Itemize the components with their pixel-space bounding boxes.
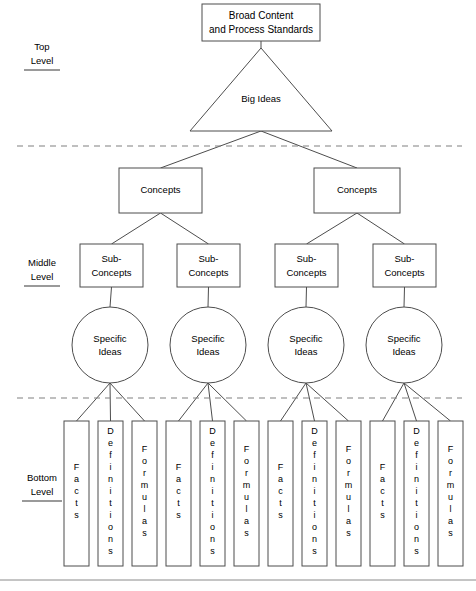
specific-ideas-line2-0: Ideas bbox=[98, 346, 121, 357]
level-label-line1-0: Top bbox=[34, 41, 49, 52]
bottom-box-6-char-1: a bbox=[278, 474, 283, 484]
sub-concepts-box-1[interactable] bbox=[177, 244, 240, 287]
bottom-box-9-char-0: F bbox=[380, 462, 386, 472]
level-label-line1-2: Bottom bbox=[27, 472, 57, 483]
connector-circle-1-to-box-1 bbox=[208, 383, 213, 421]
bottom-box-1-char-5: i bbox=[110, 486, 112, 496]
connector-concepts-1-to-sub-1 bbox=[357, 213, 405, 244]
bottom-box-1-char-7: i bbox=[110, 510, 112, 520]
bottom-box-4-char-8: o bbox=[210, 522, 215, 532]
bottom-box-10-char-8: o bbox=[414, 522, 419, 532]
big-ideas-triangle[interactable] bbox=[190, 48, 332, 131]
bottom-box-11-char-4: u bbox=[448, 492, 453, 502]
connector-triangle-to-concepts-0 bbox=[161, 131, 262, 168]
specific-ideas-line1-2: Specific bbox=[289, 333, 323, 344]
bottom-box-1-char-3: i bbox=[110, 462, 112, 472]
concepts-label-0: Concepts bbox=[140, 184, 180, 195]
bottom-box-1-char-10: s bbox=[108, 546, 113, 556]
connector-circle-3-to-box-2 bbox=[404, 383, 451, 421]
big-ideas-label: Big Ideas bbox=[241, 93, 281, 104]
sub-concepts-box-3[interactable] bbox=[373, 244, 436, 287]
connector-sub-0-to-circle bbox=[110, 287, 112, 307]
sub-concepts-line2-2: Concepts bbox=[286, 267, 326, 278]
bottom-box-10-char-7: i bbox=[416, 510, 418, 520]
bottom-box-11-char-6: a bbox=[448, 516, 453, 526]
specific-ideas-line2-2: Ideas bbox=[294, 346, 317, 357]
bottom-box-7-char-0: D bbox=[311, 426, 318, 436]
broad-standards-line2: and Process Standards bbox=[209, 24, 313, 35]
bottom-box-9-char-4: s bbox=[380, 510, 385, 520]
bottom-box-2-char-3: m bbox=[141, 480, 149, 490]
connector-circle-1-to-box-2 bbox=[208, 383, 247, 421]
diagram-canvas: Broad Contentand Process StandardsBig Id… bbox=[0, 0, 476, 591]
connector-sub-2-to-circle bbox=[306, 287, 307, 307]
specific-ideas-line2-1: Ideas bbox=[196, 346, 219, 357]
sub-concepts-line1-0: Sub- bbox=[101, 253, 121, 264]
bottom-box-11-char-7: s bbox=[448, 528, 453, 538]
bottom-box-1-char-9: n bbox=[108, 534, 113, 544]
bottom-box-10-char-1: e bbox=[414, 438, 419, 448]
bottom-box-8-char-7: s bbox=[346, 528, 351, 538]
bottom-box-8-char-2: r bbox=[347, 468, 350, 478]
connector-circle-0-to-box-2 bbox=[110, 383, 145, 421]
connector-circle-0-to-box-0 bbox=[77, 383, 111, 421]
bottom-box-7-char-10: s bbox=[312, 546, 317, 556]
sub-concepts-box-0[interactable] bbox=[80, 244, 143, 287]
connector-circle-2-to-box-0 bbox=[281, 383, 307, 421]
bottom-box-5-char-0: F bbox=[244, 444, 250, 454]
bottom-box-3-char-1: a bbox=[176, 474, 181, 484]
connector-circle-3-to-box-0 bbox=[383, 383, 405, 421]
bottom-box-11-char-1: o bbox=[448, 456, 453, 466]
bottom-box-2-char-4: u bbox=[142, 492, 147, 502]
bottom-box-3-char-4: s bbox=[176, 510, 181, 520]
bottom-box-4-char-1: e bbox=[210, 438, 215, 448]
level-label-line2-2: Level bbox=[31, 486, 54, 497]
bottom-box-4-char-3: i bbox=[212, 462, 214, 472]
specific-ideas-line1-0: Specific bbox=[93, 333, 127, 344]
bottom-box-3-char-0: F bbox=[176, 462, 182, 472]
bottom-box-6-char-0: F bbox=[278, 462, 284, 472]
bottom-box-5-char-4: u bbox=[244, 492, 249, 502]
bottom-box-7-char-5: i bbox=[314, 486, 316, 496]
bottom-box-1-char-0: D bbox=[107, 426, 114, 436]
bottom-box-1-char-8: o bbox=[108, 522, 113, 532]
bottom-box-2-char-0: F bbox=[142, 444, 148, 454]
sub-concepts-box-2[interactable] bbox=[275, 244, 338, 287]
bottom-box-4-char-4: n bbox=[210, 474, 215, 484]
bottom-box-11-char-5: l bbox=[450, 504, 452, 514]
concepts-label-1: Concepts bbox=[337, 184, 377, 195]
sub-concepts-line1-1: Sub- bbox=[198, 253, 218, 264]
connector-circle-1-to-box-0 bbox=[179, 383, 209, 421]
connector-circle-0-to-box-1 bbox=[110, 383, 111, 421]
bottom-box-8-char-6: a bbox=[346, 516, 351, 526]
bottom-box-7-char-9: n bbox=[312, 534, 317, 544]
shape-layer: Broad Contentand Process StandardsBig Id… bbox=[64, 4, 463, 566]
bottom-box-3-char-2: c bbox=[176, 486, 181, 496]
connector-sub-1-to-circle bbox=[208, 287, 209, 307]
bottom-box-0-char-1: a bbox=[74, 474, 79, 484]
connector-circle-2-to-box-1 bbox=[306, 383, 315, 421]
specific-ideas-line1-1: Specific bbox=[191, 333, 225, 344]
bottom-box-2-char-5: l bbox=[144, 504, 146, 514]
bottom-box-5-char-6: a bbox=[244, 516, 249, 526]
bottom-box-0-char-4: s bbox=[74, 510, 79, 520]
bottom-box-5-char-1: o bbox=[244, 456, 249, 466]
bottom-box-4-char-5: i bbox=[212, 486, 214, 496]
bottom-box-8-char-3: m bbox=[345, 480, 353, 490]
connector-concepts-0-to-sub-1 bbox=[161, 213, 209, 244]
specific-ideas-line1-3: Specific bbox=[387, 333, 421, 344]
bottom-box-2-char-2: r bbox=[143, 468, 146, 478]
bottom-box-7-char-3: i bbox=[314, 462, 316, 472]
bottom-box-4-char-9: n bbox=[210, 534, 215, 544]
bottom-box-9-char-2: c bbox=[380, 486, 385, 496]
sub-concepts-line2-1: Concepts bbox=[188, 267, 228, 278]
bottom-box-5-char-5: l bbox=[246, 504, 248, 514]
bottom-box-8-char-0: F bbox=[346, 444, 352, 454]
bottom-box-4-char-10: s bbox=[210, 546, 215, 556]
level-label-line2-1: Level bbox=[31, 271, 54, 282]
bottom-box-7-char-8: o bbox=[312, 522, 317, 532]
bottom-box-0-char-2: c bbox=[74, 486, 79, 496]
broad-standards-line1: Broad Content bbox=[229, 10, 294, 21]
bottom-box-10-char-10: s bbox=[414, 546, 419, 556]
connector-concepts-1-to-sub-0 bbox=[307, 213, 358, 244]
